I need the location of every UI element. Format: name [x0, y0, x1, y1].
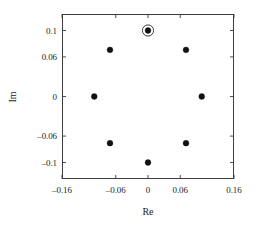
x-tick-label: –0.06 — [106, 185, 126, 195]
y-tick-label: 0 — [53, 92, 57, 102]
x-axis-ticks-bottom — [62, 175, 234, 179]
constellation-scatter-figure: –0.16–0.0600.060.16 0.10.060–0.06–0.1 Re… — [0, 0, 278, 229]
y-axis-title: Im — [7, 91, 18, 102]
y-tick-label: 0.1 — [46, 26, 57, 36]
data-point-group — [91, 28, 204, 166]
y-axis-ticks-left — [62, 31, 66, 163]
y-tick-label: –0.06 — [37, 131, 57, 141]
x-tick-label: 0.16 — [226, 185, 241, 195]
x-axis-title: Re — [142, 206, 153, 217]
x-tick-label: –0.16 — [52, 185, 72, 195]
x-axis-ticks-top — [62, 14, 234, 18]
y-tick-label: –0.1 — [42, 158, 57, 168]
y-tick-label: 0.06 — [42, 52, 57, 62]
x-tick-label: 0 — [146, 185, 150, 195]
y-axis-ticks-right — [230, 31, 234, 163]
x-tick-label: 0.06 — [173, 185, 188, 195]
